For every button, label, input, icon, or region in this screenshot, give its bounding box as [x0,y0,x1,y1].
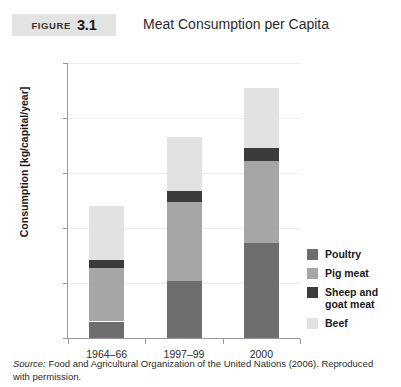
legend-item-label: Pig meat [325,267,369,279]
legend-item-label: Beef [325,317,348,329]
source-text: Food and Agricultural Organization of th… [13,358,373,382]
y-axis-tick [63,283,68,284]
bar-segment [167,281,202,338]
bar-segment [89,268,124,322]
bar-segment [167,202,202,281]
legend-swatch-icon [307,249,318,260]
bar-segment [167,137,202,190]
y-axis-tick [63,228,68,229]
x-axis-tick [223,339,224,344]
bar-segment [244,148,279,161]
bar-segment [89,206,124,260]
legend-item: Poultry [307,248,401,260]
y-axis-tick [63,63,68,64]
legend-item-label: Sheep and goat meat [325,286,378,310]
x-axis-tick [300,339,301,344]
y-axis-tick [63,173,68,174]
y-axis-line [67,63,68,339]
bar-segment [244,88,279,149]
figure-header: FIGURE 3.1 Meat Consumption per Capita [0,0,401,46]
figure-source-note: Source: Food and Agricultural Organizati… [13,357,391,383]
legend-item: Pig meat [307,267,401,279]
bar-segment [89,260,124,268]
bar-stack [167,63,202,338]
chart-legend: PoultryPig meatSheep and goat meatBeef [307,248,401,336]
legend-swatch-icon [307,287,318,298]
figure-badge-number: 3.1 [77,17,97,33]
x-axis-line [67,338,300,339]
x-axis-tick [68,339,69,344]
bar-segment [244,161,279,243]
y-axis-title: Consumption [kg/capital/year] [18,52,30,272]
figure-badge-word: FIGURE [31,20,71,31]
bar-segment [167,191,202,202]
y-axis-tick [63,118,68,119]
bar-stack [89,63,124,338]
x-axis-tick [145,339,146,344]
figure-title: Meat Consumption per Capita [143,16,329,32]
legend-item: Beef [307,317,401,329]
source-label: Source: [13,358,46,369]
legend-swatch-icon [307,318,318,329]
bar-stack [244,63,279,338]
legend-swatch-icon [307,268,318,279]
bar-segment [89,322,124,339]
legend-item: Sheep and goat meat [307,286,401,310]
bar-segment [244,243,279,338]
figure-badge: FIGURE 3.1 [12,14,116,36]
plot-area: 010203040501964–661997–992000 [68,63,300,338]
legend-item-label: Poultry [325,248,361,260]
